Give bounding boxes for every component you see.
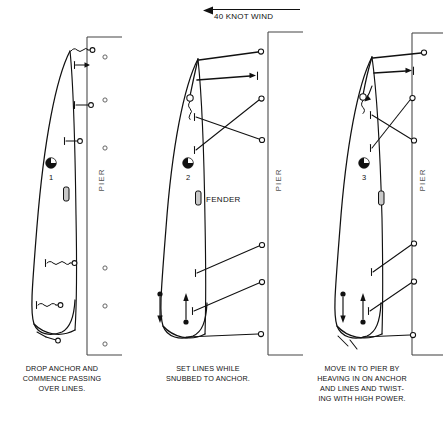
caption-3-line-2: HEAVING IN ON ANCHOR: [317, 374, 407, 383]
caption-2: SET LINES WHILE SNUBBED TO ANCHOR.: [166, 364, 250, 383]
bow-inner-2: [190, 59, 198, 96]
wind-label: 40 KNOT WIND: [214, 12, 273, 21]
caption-1-line-1: DROP ANCHOR AND: [26, 364, 98, 373]
fender-2: [196, 191, 202, 205]
caption-1-line-2: COMMENCE PASSING: [23, 374, 102, 383]
caption-1-line-3: OVER LINES.: [39, 384, 86, 393]
panel-1: PIER: [23, 37, 122, 393]
fender-label-2: FENDER: [206, 195, 241, 204]
pier-label-1: PIER: [97, 168, 106, 191]
caption-3: MOVE IN TO PIER BY HEAVING IN ON ANCHOR …: [317, 364, 407, 403]
caption-2-line-1: SET LINES WHILE: [176, 364, 240, 373]
fender-1: [64, 187, 70, 201]
pier-label-2: PIER: [274, 168, 283, 191]
ship-number-1: 1: [49, 173, 53, 182]
pier-bollards-1: [103, 55, 107, 346]
fender-3: [379, 191, 385, 205]
mooring-sequence-figure: 40 KNOT WIND PIER: [0, 0, 443, 428]
ship-marker-3: 3: [359, 158, 370, 182]
ship-number-2: 2: [186, 173, 190, 182]
pier-1: PIER: [87, 37, 122, 355]
pier-2: PIER: [268, 32, 303, 355]
panel-3: PIER: [317, 33, 443, 403]
ship-number-3: 3: [362, 173, 366, 182]
pier-3: PIER: [412, 33, 443, 355]
pier-label-3: PIER: [418, 168, 427, 191]
caption-2-line-2: SNUBBED TO ANCHOR.: [166, 374, 250, 383]
deck-edge-1: [70, 51, 77, 330]
mooring-lines-3: [360, 50, 427, 338]
wind-arrow-group: 40 KNOT WIND: [203, 7, 300, 22]
caption-3-line-4: ING WITH HIGH POWER.: [318, 394, 405, 403]
caption-3-line-1: MOVE IN TO PIER BY: [324, 364, 399, 373]
caption-3-line-3: AND LINES AND TWIST-: [320, 384, 404, 393]
motion-arrows-3: [340, 291, 365, 324]
caption-1: DROP ANCHOR AND COMMENCE PASSING OVER LI…: [23, 364, 102, 393]
ship-marker-1: 1: [46, 158, 57, 182]
ship-marker-2: 2: [183, 158, 194, 182]
panel-2: PIER: [157, 32, 303, 383]
